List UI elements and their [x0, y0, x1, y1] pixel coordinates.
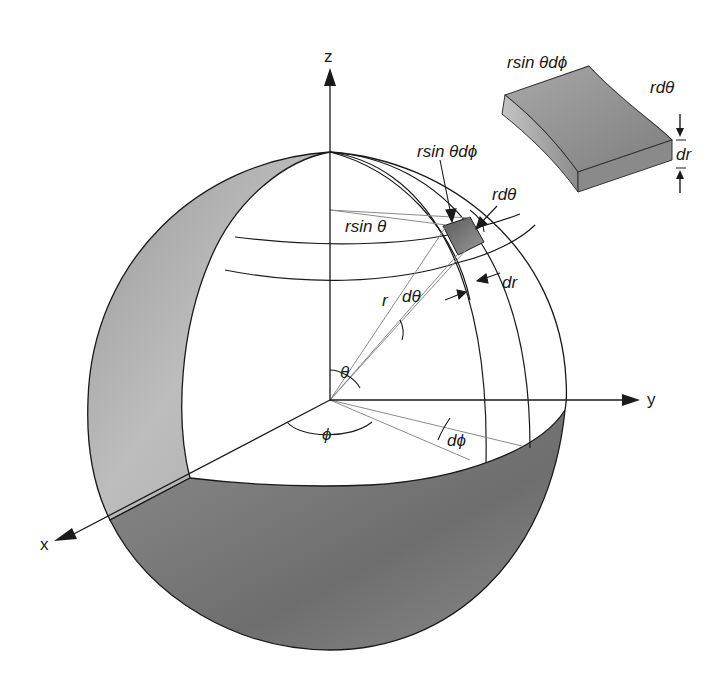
sphere-left-face — [88, 152, 330, 520]
label-dr: dr — [502, 273, 518, 292]
inset-label-top-edge: rsin θdϕ — [507, 53, 567, 72]
inset-label-thickness: dr — [676, 145, 692, 164]
label-theta: θ — [340, 363, 350, 382]
y-axis: y — [330, 390, 656, 409]
spherical-coordinates-diagram: z y x rsin θdϕ rdθ rsin θ dr r dθ θ ϕ dϕ — [0, 0, 723, 686]
z-axis: z — [324, 47, 336, 400]
y-axis-label: y — [647, 390, 656, 409]
label-r-sin-theta: rsin θ — [345, 217, 387, 236]
sphere-outline — [330, 152, 566, 410]
dtheta-arc — [400, 320, 403, 340]
z-axis-label: z — [324, 47, 333, 66]
label-r-sin-theta-dphi: rsin θdϕ — [417, 142, 477, 161]
label-d-phi: dϕ — [447, 431, 466, 450]
x-axis-label: x — [40, 535, 49, 554]
inset-label-side-edge: rdθ — [650, 78, 675, 97]
label-phi: ϕ — [322, 425, 331, 444]
label-r: r — [382, 291, 389, 310]
label-d-theta: dθ — [402, 287, 421, 306]
construction-lines — [330, 210, 522, 460]
label-r-dtheta: rdθ — [492, 185, 517, 204]
